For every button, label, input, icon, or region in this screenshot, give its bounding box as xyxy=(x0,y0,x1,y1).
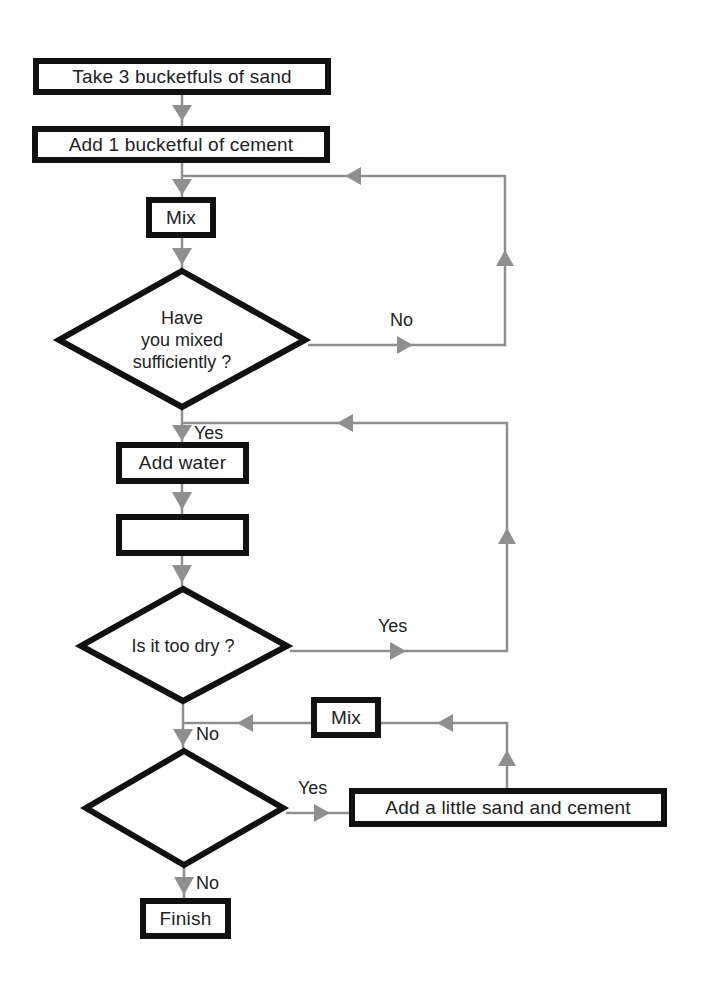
edge-label-blank-no: No xyxy=(196,873,219,894)
step-label: Finish xyxy=(160,908,212,930)
decision-blank xyxy=(86,751,283,865)
decision-line: you mixed xyxy=(112,329,252,351)
step-mix-2: Mix xyxy=(311,697,381,738)
edge-label-mixed-no: No xyxy=(390,310,413,331)
edge-label-dry-no: No xyxy=(196,724,219,745)
step-label: Mix xyxy=(331,707,361,729)
step-finish: Finish xyxy=(140,898,231,939)
step-add-water: Add water xyxy=(116,442,249,484)
step-label: Add 1 bucketful of cement xyxy=(69,134,294,156)
step-take-sand: Take 3 bucketfuls of sand xyxy=(33,58,331,95)
step-add-sand-cement: Add a little sand and cement xyxy=(349,788,667,827)
decision-line: Is it too dry ? xyxy=(103,635,263,657)
step-label: Add a little sand and cement xyxy=(385,797,630,819)
step-mix-1: Mix xyxy=(146,197,216,238)
step-blank xyxy=(116,514,249,556)
decision-too-dry-text: Is it too dry ? xyxy=(103,635,263,657)
step-label: Add water xyxy=(139,452,226,474)
step-add-cement: Add 1 bucketful of cement xyxy=(32,126,330,163)
decision-line: sufficiently ? xyxy=(112,351,252,373)
edge-label-dry-yes: Yes xyxy=(378,616,407,637)
decision-line: Have xyxy=(112,307,252,329)
step-label: Mix xyxy=(166,207,196,229)
decision-mixed-sufficiently-text: Have you mixed sufficiently ? xyxy=(112,307,252,373)
edge-label-blank-yes: Yes xyxy=(298,778,327,799)
step-label: Take 3 bucketfuls of sand xyxy=(72,66,291,88)
edge-label-mixed-yes: Yes xyxy=(194,423,223,444)
